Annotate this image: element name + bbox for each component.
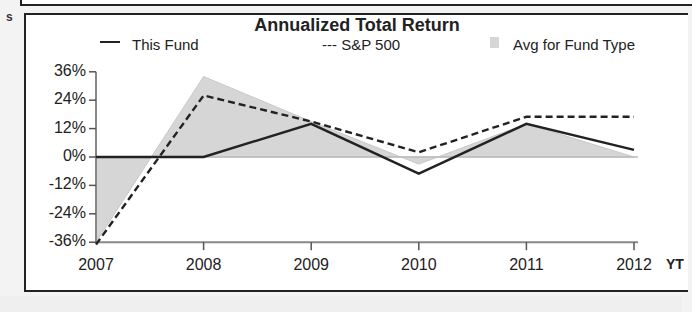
upper-panel-frame [20, 0, 692, 6]
chart-panel: Annualized Total Return This Fund --- S&… [24, 13, 688, 292]
page-bottom-strip [0, 296, 682, 312]
margin-mark: s [6, 10, 13, 24]
plot-area [26, 15, 688, 292]
avg-fund-type-area [96, 77, 634, 243]
